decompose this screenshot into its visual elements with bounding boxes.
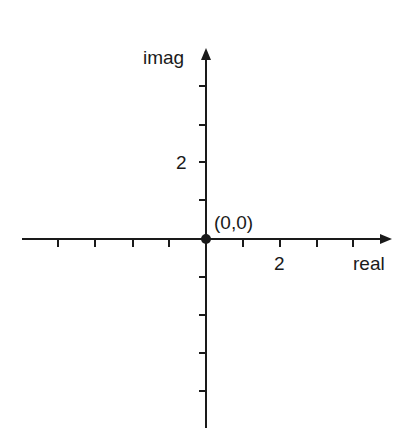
real-axis-label: real [353,254,385,273]
imag-tick-label-2: 2 [176,153,187,172]
real-tick-label-2: 2 [274,254,285,273]
imag-axis-arrow-icon [201,48,211,60]
imag-axis-label: imag [143,48,184,67]
origin-point [201,234,211,244]
origin-label: (0,0) [214,213,253,232]
real-axis-arrow-icon [380,234,392,244]
complex-plane-diagram [0,0,415,431]
